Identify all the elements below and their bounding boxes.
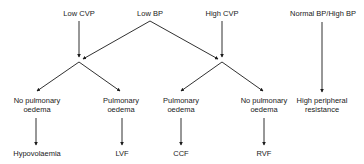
finding-high-peripheral-resistance: High peripheral resistance — [297, 96, 348, 114]
finding-line2: oedema — [163, 105, 199, 114]
finding-no-pulmonary-oedema-right: No pulmonary oedema — [241, 96, 288, 114]
finding-pulmonary-oedema-left: Pulmonary oedema — [103, 96, 139, 114]
diagnosis-rvf: RVF — [257, 149, 272, 158]
arrow-left-junction-to-no-po — [37, 62, 79, 91]
label-normal-high-bp: Normal BP/High BP — [290, 9, 356, 18]
finding-line1: No pulmonary — [14, 96, 61, 105]
arrow-left-junction-to-po — [79, 62, 120, 91]
finding-line2: oedema — [103, 105, 139, 114]
diagnosis-ccf: CCF — [173, 149, 188, 158]
finding-line1: No pulmonary — [241, 96, 288, 105]
finding-line2: oedema — [241, 105, 288, 114]
label-low-cvp: Low CVP — [63, 9, 94, 18]
diagnosis-lvf: LVF — [115, 149, 128, 158]
diagnosis-hypovolaemia: Hypovolaemia — [13, 149, 61, 158]
arrow-low-bp-to-right-junction — [150, 21, 218, 59]
label-low-bp: Low BP — [137, 9, 163, 18]
arrow-right-junction-to-no-po — [222, 62, 263, 91]
decision-tree-diagram: Low CVP Low BP High CVP Normal BP/High B… — [0, 0, 364, 164]
finding-pulmonary-oedema-right: Pulmonary oedema — [163, 96, 199, 114]
finding-line2: resistance — [297, 105, 348, 114]
finding-line1: Pulmonary — [163, 96, 199, 105]
finding-line1: High peripheral — [297, 96, 348, 105]
arrow-low-bp-to-left-junction — [83, 21, 150, 59]
finding-no-pulmonary-oedema-left: No pulmonary oedema — [14, 96, 61, 114]
arrow-right-junction-to-po — [181, 62, 222, 91]
label-high-cvp: High CVP — [206, 9, 239, 18]
connector-lines — [0, 0, 364, 164]
finding-line2: oedema — [14, 105, 61, 114]
finding-line1: Pulmonary — [103, 96, 139, 105]
